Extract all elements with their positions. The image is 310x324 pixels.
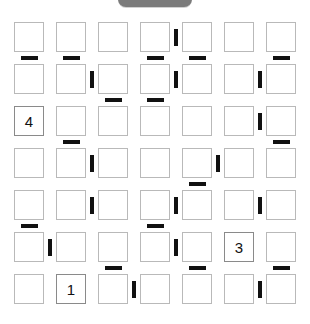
grid-cell-empty[interactable] [140, 22, 170, 52]
grid-cell-empty[interactable] [224, 274, 254, 304]
grid-cell-empty[interactable] [140, 190, 170, 220]
grid-cell-empty[interactable] [140, 148, 170, 178]
grid-cell-empty[interactable] [14, 190, 44, 220]
constraint-mark-horizontal [147, 98, 164, 102]
grid-cell-empty[interactable] [98, 190, 128, 220]
grid-cell-given[interactable]: 4 [14, 106, 44, 136]
grid-cell-empty[interactable] [182, 148, 212, 178]
constraint-mark-vertical [258, 281, 262, 298]
grid-cell-empty[interactable] [56, 64, 86, 94]
constraint-mark-horizontal [273, 266, 290, 270]
grid-cell-empty[interactable] [56, 148, 86, 178]
constraint-mark-vertical [90, 197, 94, 214]
constraint-mark-vertical [258, 197, 262, 214]
grid-cell-empty[interactable] [266, 274, 296, 304]
constraint-mark-horizontal [105, 98, 122, 102]
grid-cell-empty[interactable] [14, 148, 44, 178]
constraint-mark-horizontal [273, 56, 290, 60]
constraint-mark-horizontal [189, 266, 206, 270]
grid-cell-empty[interactable] [140, 274, 170, 304]
constraint-mark-horizontal [63, 56, 80, 60]
constraint-mark-horizontal [189, 182, 206, 186]
grid-cell-given[interactable]: 1 [56, 274, 86, 304]
grid-cell-empty[interactable] [56, 106, 86, 136]
grid-cell-empty[interactable] [98, 22, 128, 52]
grid-cell-empty[interactable] [182, 190, 212, 220]
grid-cell-empty[interactable] [98, 64, 128, 94]
grid-cell-empty[interactable] [14, 232, 44, 262]
grid-cell-empty[interactable] [224, 64, 254, 94]
grid-cell-empty[interactable] [98, 232, 128, 262]
grid-cell-empty[interactable] [98, 274, 128, 304]
constraint-mark-vertical [90, 71, 94, 88]
constraint-mark-vertical [216, 155, 220, 172]
grid-cell-empty[interactable] [182, 64, 212, 94]
grid-cell-empty[interactable] [14, 64, 44, 94]
constraint-mark-vertical [174, 71, 178, 88]
constraint-mark-vertical [48, 239, 52, 256]
grid-cell-empty[interactable] [182, 274, 212, 304]
grid-cell-empty[interactable] [98, 148, 128, 178]
grid-cell-empty[interactable] [182, 106, 212, 136]
constraint-mark-vertical [174, 197, 178, 214]
constraint-mark-horizontal [147, 56, 164, 60]
puzzle-grid: 431 [0, 0, 310, 324]
constraint-mark-horizontal [63, 140, 80, 144]
constraint-mark-horizontal [105, 266, 122, 270]
grid-cell-empty[interactable] [56, 22, 86, 52]
grid-cell-given[interactable]: 3 [224, 232, 254, 262]
grid-cell-empty[interactable] [140, 232, 170, 262]
constraint-mark-horizontal [21, 224, 38, 228]
grid-cell-empty[interactable] [182, 232, 212, 262]
grid-cell-empty[interactable] [266, 148, 296, 178]
grid-cell-empty[interactable] [224, 106, 254, 136]
constraint-mark-horizontal [189, 56, 206, 60]
grid-cell-empty[interactable] [182, 22, 212, 52]
constraint-mark-vertical [174, 29, 178, 46]
constraint-mark-vertical [174, 239, 178, 256]
grid-cell-empty[interactable] [14, 274, 44, 304]
grid-cell-empty[interactable] [140, 64, 170, 94]
constraint-mark-horizontal [21, 56, 38, 60]
grid-cell-empty[interactable] [140, 106, 170, 136]
grid-cell-empty[interactable] [266, 232, 296, 262]
grid-cell-empty[interactable] [266, 22, 296, 52]
grid-cell-empty[interactable] [266, 190, 296, 220]
grid-cell-empty[interactable] [98, 106, 128, 136]
puzzle-app: 431 [0, 0, 310, 324]
grid-cell-empty[interactable] [266, 64, 296, 94]
constraint-mark-vertical [258, 113, 262, 130]
constraint-mark-horizontal [273, 140, 290, 144]
grid-cell-empty[interactable] [14, 22, 44, 52]
constraint-mark-vertical [258, 71, 262, 88]
grid-cell-empty[interactable] [56, 232, 86, 262]
constraint-mark-vertical [90, 155, 94, 172]
grid-cell-empty[interactable] [224, 148, 254, 178]
grid-cell-empty[interactable] [56, 190, 86, 220]
constraint-mark-vertical [132, 281, 136, 298]
constraint-mark-horizontal [147, 224, 164, 228]
grid-cell-empty[interactable] [224, 190, 254, 220]
grid-cell-empty[interactable] [224, 22, 254, 52]
grid-cell-empty[interactable] [266, 106, 296, 136]
